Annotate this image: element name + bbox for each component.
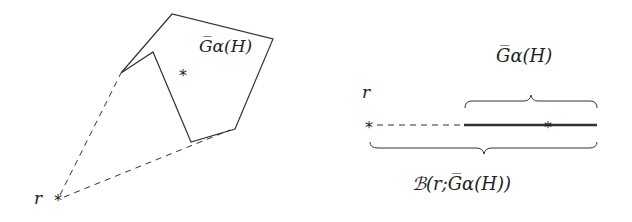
dashed-tangent-upper [60,73,121,195]
top-brace [465,95,597,108]
left-point-label: r [34,190,42,207]
right-external-asterisk: * [365,118,373,137]
right-interior-asterisk: * [544,118,552,137]
right-figure [370,95,597,154]
bottom-brace-label: ℬ(r;G̅α(H)) [412,175,511,193]
left-set-label: G̅α(H) [199,38,252,55]
right-point-label: r [362,84,370,101]
dashed-tangent-lower [64,130,230,197]
external-point-asterisk: * [54,191,62,210]
diagram-canvas: * * * * [0,0,632,222]
bottom-brace [370,142,597,154]
set-polygon [121,14,273,142]
interior-point-asterisk: * [179,66,187,85]
top-brace-label: G̅α(H) [496,47,552,65]
